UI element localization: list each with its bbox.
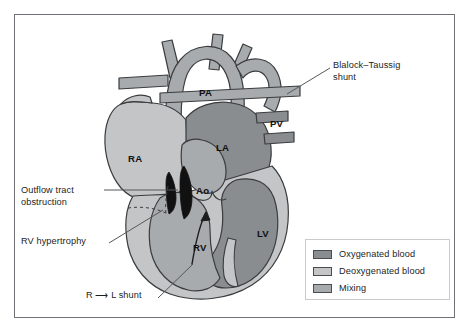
- annotation-right-to-left-shunt: R ⟶ L shunt: [86, 290, 196, 302]
- pulmonary-vein-lower: [264, 132, 294, 144]
- legend-label-mixing: Mixing: [339, 283, 366, 293]
- legend: Oxygenated blood Deoxygenated blood Mixi…: [305, 239, 450, 300]
- annotation-outflow-tract-obstruction: Outflow tract obstruction: [21, 185, 131, 208]
- label-left-atrium: LA: [216, 142, 229, 153]
- legend-item-deoxygenated: Deoxygenated blood: [313, 263, 449, 279]
- label-pulmonary-artery: PA: [199, 87, 212, 98]
- annotation-blalock-taussig-shunt: Blalock–Taussig shunt: [333, 60, 443, 83]
- legend-item-oxygenated: Oxygenated blood: [313, 246, 449, 262]
- left-branch-vessel: [119, 75, 168, 89]
- label-pulmonary-vein: PV: [270, 118, 283, 129]
- label-aorta: Ao: [196, 185, 209, 196]
- label-right-atrium: RA: [128, 153, 142, 164]
- label-left-ventricle: LV: [257, 228, 269, 239]
- figure-container: PA PV RA LA Ao RV LV Blalock–Taussig shu…: [0, 0, 469, 334]
- legend-swatch-oxygenated: [313, 250, 332, 259]
- leader-bt-shunt: [287, 68, 330, 94]
- legend-label-deoxygenated: Deoxygenated blood: [339, 266, 425, 276]
- label-right-ventricle: RV: [193, 242, 207, 253]
- annotation-rv-hypertrophy: RV hypertrophy: [21, 236, 131, 248]
- legend-swatch-mixing: [313, 284, 332, 293]
- legend-label-oxygenated: Oxygenated blood: [339, 249, 415, 259]
- legend-swatch-deoxygenated: [313, 267, 332, 276]
- legend-item-mixing: Mixing: [313, 280, 449, 296]
